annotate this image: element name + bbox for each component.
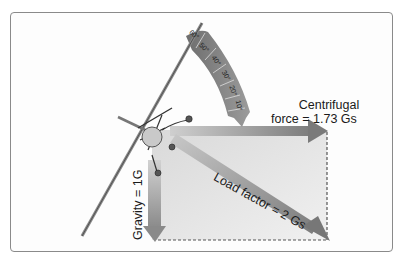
centrifugal-label-line1: Centrifugal — [284, 98, 374, 112]
centrifugal-label-line2: force = 1.73 Gs — [271, 112, 357, 126]
gravity-label: Gravity = 1G — [131, 169, 145, 240]
bank-angle-scale — [186, 31, 250, 127]
